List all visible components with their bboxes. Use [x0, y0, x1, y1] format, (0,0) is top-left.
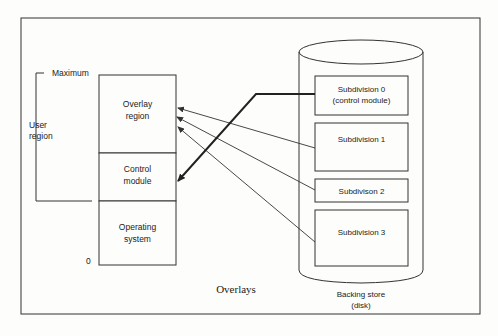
overlay-arrows: [177, 94, 315, 242]
user-region-bracket: Maximum User region 0: [29, 68, 92, 266]
overlay-region-label-2: region: [126, 111, 150, 121]
user-region-label-line1: User: [29, 120, 47, 130]
subdivision-3-box: [315, 210, 408, 266]
subdivision-0-label: Subdivision 0: [338, 85, 386, 94]
arrow-subdivision-0-to-control-module: [178, 94, 315, 181]
figure-caption: Overlays: [216, 283, 256, 295]
memory-column: Overlay region Control module Operating …: [99, 75, 176, 265]
operating-system-label-2: system: [124, 234, 151, 244]
maximum-label: Maximum: [52, 68, 89, 78]
backing-store-disk: Subdivision 0 (control module) Subdivisi…: [299, 40, 423, 310]
backing-store-sublabel: (disk): [351, 301, 371, 310]
subdivision-3-label: Subdivision 3: [338, 228, 386, 237]
user-region-label-line2: region: [29, 131, 53, 141]
arrow-subdivision-3-to-overlay: [178, 127, 315, 242]
subdivision-1-box: [315, 123, 408, 171]
subdivision-2-label: Subdivison 2: [339, 187, 385, 196]
subdivision-0-sublabel: (control module): [333, 96, 391, 105]
subdivision-1-label: Subdivision 1: [338, 135, 386, 144]
control-module-label-2: module: [124, 176, 152, 186]
overlays-diagram: Maximum User region 0 Overlay region Con…: [0, 0, 498, 336]
overlay-region-label-1: Overlay: [123, 99, 153, 109]
figure-frame: [21, 18, 480, 314]
operating-system-box: [99, 201, 176, 265]
backing-store-label: Backing store: [337, 290, 386, 299]
zero-label: 0: [86, 256, 91, 266]
control-module-label-1: Control: [124, 164, 152, 174]
operating-system-label-1: Operating: [119, 222, 157, 232]
